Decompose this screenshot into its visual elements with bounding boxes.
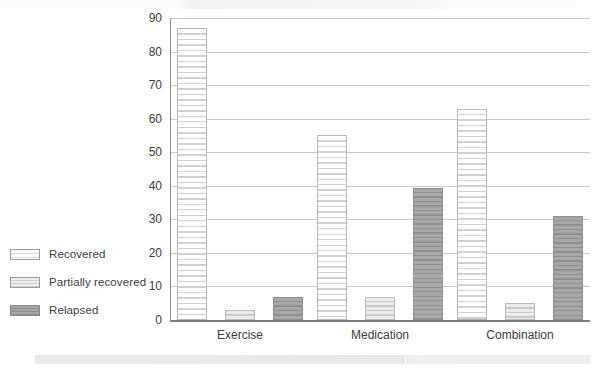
x-label-combination: Combination [486,328,553,342]
y-axis-line [170,18,171,321]
y-tick-label-30: 30 [132,212,162,226]
bar-medication-partially-recovered [365,297,395,321]
x-label-medication: Medication [351,328,409,342]
bar-exercise-relapsed [273,297,303,321]
bar-combination-partially-recovered [505,303,535,320]
legend-label-relapsed: Relapsed [49,304,98,316]
y-tick-label-60: 60 [132,112,162,126]
gridline-20 [170,253,590,254]
y-tick-label-10: 10 [132,279,162,293]
bar-exercise-partially-recovered [225,310,255,320]
gridline-10 [170,286,590,287]
y-tick-label-90: 90 [132,11,162,25]
bar-medication-recovered [317,135,347,320]
plot-area: 0102030405060708090 ExerciseMedicationCo… [170,18,590,321]
legend-swatch-relapsed-icon [10,305,40,316]
chart-figure: Recovered Partially recovered Relapsed 0… [0,0,605,368]
bar-medication-relapsed [413,188,443,321]
legend-swatch-recovered-icon [10,249,40,260]
gridline-90 [170,18,590,19]
gridline-80 [170,52,590,53]
x-axis-line [170,320,590,322]
y-tick-label-80: 80 [132,45,162,59]
y-tick-label-70: 70 [132,78,162,92]
y-tick-label-50: 50 [132,145,162,159]
gridline-60 [170,119,590,120]
bar-combination-relapsed [553,216,583,320]
legend-label-recovered: Recovered [49,248,106,260]
y-tick-label-20: 20 [132,246,162,260]
gridline-40 [170,186,590,187]
gridline-70 [170,85,590,86]
gridline-50 [170,152,590,153]
y-tick-label-40: 40 [132,179,162,193]
bar-combination-recovered [457,109,487,320]
page-bottom-cutoff-artifact [35,355,590,364]
page-top-cutoff-artifact [0,0,605,9]
x-label-exercise: Exercise [217,328,263,342]
y-tick-label-0: 0 [132,313,162,327]
gridline-30 [170,219,590,220]
bar-exercise-recovered [177,28,207,320]
legend-swatch-partially-recovered-icon [10,277,40,288]
